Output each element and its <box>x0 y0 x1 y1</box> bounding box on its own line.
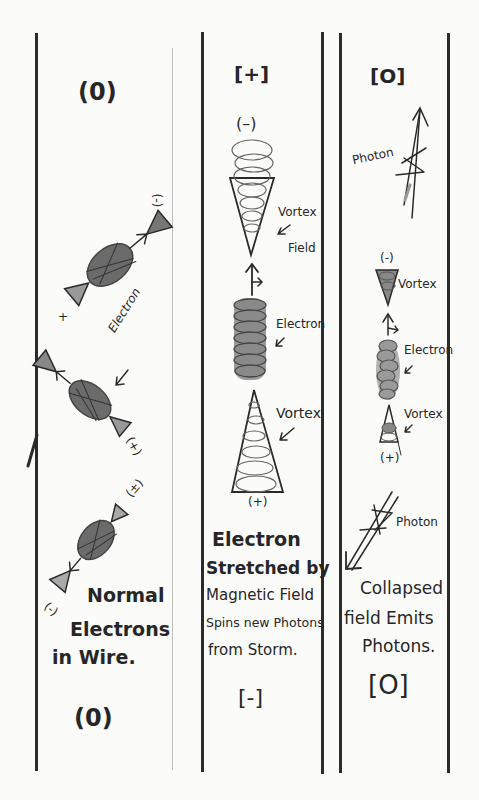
panel3-plus-bottom-label: (+) <box>380 452 399 465</box>
photon-bottom <box>346 492 398 570</box>
stretched-vortex-top <box>230 140 290 255</box>
panel1-caption-line1: Normal <box>87 586 164 606</box>
panel3-vortex-top-label: Vortex <box>398 278 437 291</box>
panel2-electron-label: Electron <box>276 318 325 331</box>
panel2-caption-line1: Electron <box>212 530 301 550</box>
panel3-caption-line2: field Emits <box>344 610 434 628</box>
panel2-caption-line2: Stretched by <box>206 560 329 578</box>
panel2-field-label: Field <box>288 242 316 255</box>
panel2-vortex-field-label: Vortex <box>278 206 317 219</box>
panel3-caption-line1: Collapsed <box>360 580 443 598</box>
panel1-caption-line3: in Wire. <box>52 648 136 668</box>
normal-electron-3 <box>46 500 133 596</box>
panel2-bottom-charge: [-] <box>238 686 263 709</box>
panel2-plus-bottom-label: (+) <box>248 496 267 509</box>
collapsed-electron <box>376 340 400 400</box>
panel3-vortex-bottom-label: Vortex <box>404 408 443 421</box>
panel3-electron-label: Electron <box>404 344 453 357</box>
panel1-caption-line2: Electrons <box>70 620 170 640</box>
panel1-minus-top-label: (-) <box>151 193 164 207</box>
panel2-caption-line5: from Storm. <box>208 643 298 659</box>
normal-electron-2 <box>30 346 135 441</box>
photon-top <box>396 108 428 218</box>
normal-electron-1 <box>61 206 176 310</box>
panel3-photon-bottom-label: Photon <box>396 516 438 529</box>
panel2-top-charge: [+] <box>234 64 269 85</box>
panel2-minus-top-label: (–) <box>236 116 256 133</box>
panel2-caption-line3: Magnetic Field <box>206 588 314 604</box>
panel1-top-charge: (0) <box>78 80 117 105</box>
panel3-top-charge: [O] <box>370 66 405 87</box>
panel3-minus-top-label: (-) <box>380 252 394 265</box>
panel3-caption-line3: Photons. <box>362 638 436 656</box>
panel2-caption-line4: Spins new Photons <box>206 616 324 629</box>
panel1-plus-top-label: + <box>58 311 68 324</box>
stretched-electron <box>234 298 266 380</box>
collapsed-vortex-top <box>376 270 398 305</box>
panel3-bottom-charge: [O] <box>368 672 409 699</box>
panel2-vortex-label: Vortex <box>276 406 321 421</box>
panel1-bottom-charge: (0) <box>74 706 113 731</box>
